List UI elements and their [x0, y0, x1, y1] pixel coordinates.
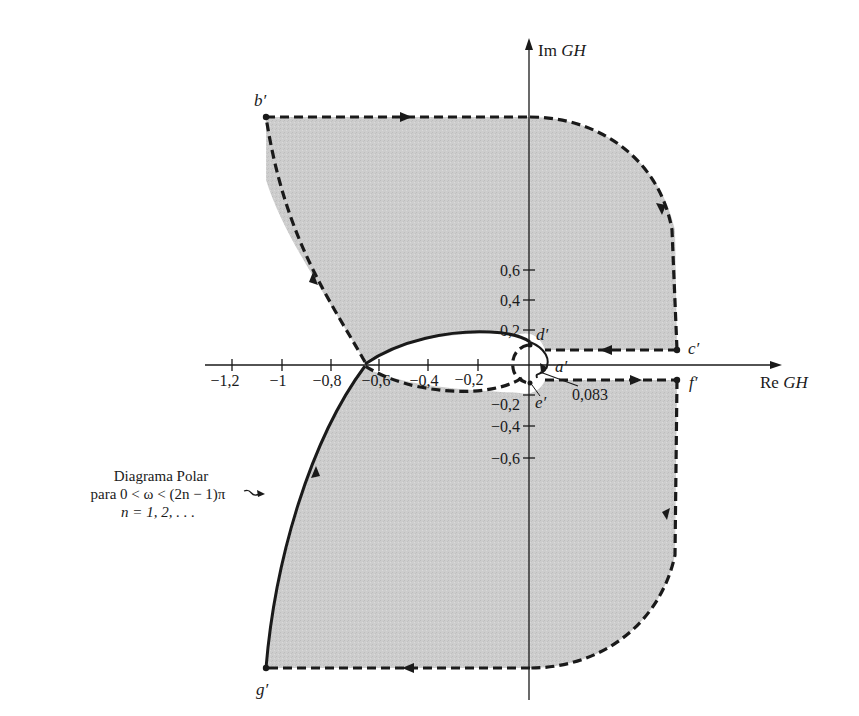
- caption-pointer-arrowhead-icon: [257, 490, 265, 497]
- point-label-a: a′: [555, 357, 568, 376]
- y-axis-label: Im GH: [538, 41, 587, 60]
- point-f-dot: [674, 377, 680, 383]
- point-label-b: b′: [254, 91, 267, 110]
- annotation-value: 0,083: [572, 386, 608, 403]
- point-label-e: e′: [535, 393, 547, 412]
- x-tick-labels: −1,2 −1 −0,8 −0,6 −0,4 −0,2: [210, 371, 483, 389]
- caption-line-1: Diagrama Polar: [114, 468, 209, 484]
- x-tick-label: −0,4: [409, 372, 438, 389]
- point-c-dot: [674, 347, 680, 353]
- y-axis-arrow-icon: [525, 38, 533, 50]
- x-tick-label: −0,6: [361, 372, 390, 389]
- y-tick-label: 0,4: [500, 292, 520, 309]
- point-g-dot: [263, 665, 269, 671]
- point-label-d: d′: [536, 325, 549, 344]
- caption-line-3: n = 1, 2, . . .: [121, 504, 195, 520]
- nyquist-diagram: Im GH Re GH −1,2 −1 −0,8 −0,6 −0,4 −0,2 …: [0, 0, 859, 716]
- x-axis-label: Re GH: [760, 373, 809, 392]
- caption-line-2: para 0 < ω < (2n − 1)π: [91, 486, 226, 503]
- y-tick-label: −0,2: [491, 396, 520, 413]
- point-e-dot: [528, 381, 533, 386]
- x-tick-label: −1,2: [210, 372, 239, 389]
- y-tick-label: −0,4: [491, 418, 520, 435]
- shaded-encirclement-region: [266, 117, 677, 668]
- point-b-dot: [263, 114, 269, 120]
- x-tick-label: −0,2: [454, 371, 483, 388]
- point-label-c: c′: [688, 339, 700, 358]
- x-axis-arrow-icon: [770, 361, 782, 369]
- point-label-f: f′: [689, 373, 698, 392]
- x-tick-label: −0,8: [312, 372, 341, 389]
- polar-plot-caption: Diagrama Polar para 0 < ω < (2n − 1)π n …: [91, 468, 226, 520]
- y-tick-label: 0,6: [500, 262, 520, 279]
- point-d-dot: [528, 343, 533, 348]
- y-tick-label: −0,6: [491, 450, 520, 467]
- x-tick-label: −1: [269, 372, 286, 389]
- y-tick-label: 0,2: [500, 322, 520, 339]
- point-label-g: g′: [256, 680, 269, 699]
